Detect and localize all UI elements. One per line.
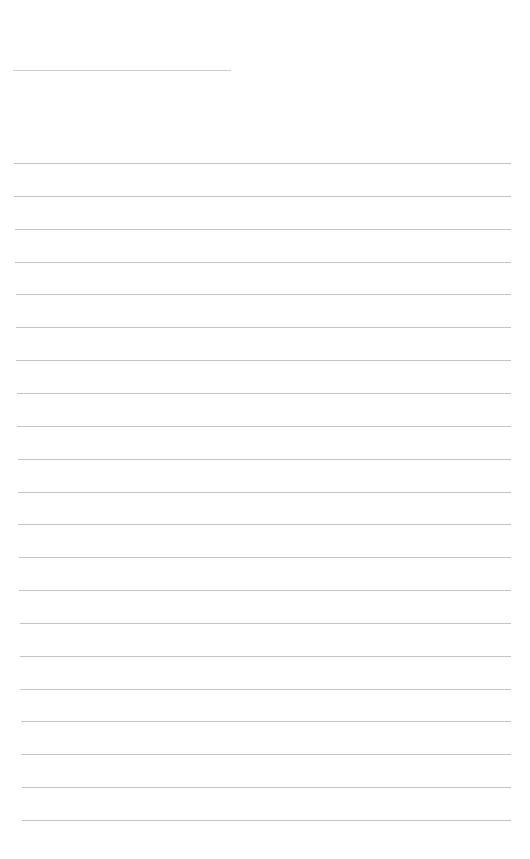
writing-line bbox=[18, 524, 511, 525]
writing-line bbox=[18, 459, 511, 460]
writing-line bbox=[19, 590, 511, 591]
writing-line bbox=[20, 656, 511, 657]
writing-line bbox=[21, 754, 511, 755]
writing-line bbox=[16, 360, 511, 361]
writing-line bbox=[16, 294, 511, 295]
writing-line bbox=[19, 557, 511, 558]
writing-line bbox=[22, 787, 511, 788]
writing-lines bbox=[0, 0, 530, 859]
writing-line bbox=[20, 623, 511, 624]
writing-line bbox=[21, 721, 511, 722]
writing-line bbox=[14, 163, 511, 164]
writing-line bbox=[15, 229, 511, 230]
writing-line bbox=[22, 820, 511, 821]
writing-line bbox=[17, 426, 511, 427]
writing-line bbox=[14, 196, 511, 197]
writing-line bbox=[18, 492, 511, 493]
writing-line bbox=[20, 689, 511, 690]
lined-page bbox=[0, 0, 530, 859]
writing-line bbox=[15, 262, 511, 263]
writing-line bbox=[17, 393, 511, 394]
writing-line bbox=[16, 327, 511, 328]
